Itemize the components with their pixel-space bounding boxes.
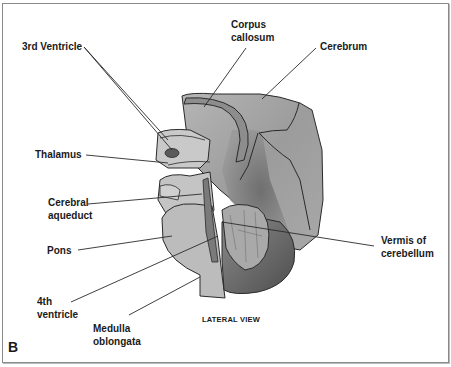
figure-caption: LATERAL VIEW <box>202 313 260 326</box>
label-third-ventricle: 3rd Ventricle <box>22 40 82 53</box>
label-corpus-callosum: Corpus callosum <box>231 18 274 44</box>
label-medulla-oblongata: Medulla oblongata <box>93 322 141 348</box>
panel-label: B <box>8 341 18 354</box>
label-pons: Pons <box>47 244 71 257</box>
label-cerebrum: Cerebrum <box>320 40 367 53</box>
label-fourth-ventricle: 4th ventricle <box>37 295 78 321</box>
label-vermis-of-cerebellum: Vermis of cerebellum <box>381 234 434 260</box>
label-thalamus: Thalamus <box>35 148 82 161</box>
label-cerebral-aqueduct: Cerebral aqueduct <box>48 196 92 222</box>
